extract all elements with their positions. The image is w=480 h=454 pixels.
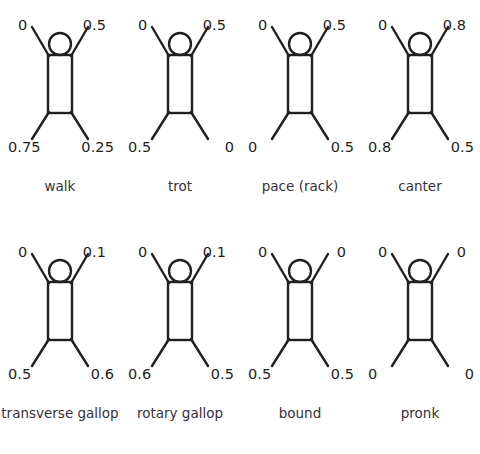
phase-front-left: 0 [18, 245, 27, 260]
gait-label-trot: trot [120, 180, 240, 194]
front-left-limb [272, 27, 289, 56]
torso-rect [408, 282, 432, 340]
gait-label-pace-rack: pace (rack) [240, 180, 360, 194]
phase-front-right: 0 [457, 245, 466, 260]
torso-rect [168, 282, 192, 340]
front-left-limb [392, 27, 409, 56]
hind-right-limb [431, 339, 448, 366]
phase-hind-left: 0 [248, 140, 257, 155]
hind-left-limb [392, 339, 409, 366]
phase-front-right: 0.8 [443, 18, 466, 33]
head-circle [49, 260, 71, 282]
gait-cell-trot: 00.50.50trot [120, 0, 240, 227]
head-circle [409, 33, 431, 55]
head-circle [409, 260, 431, 282]
phase-hind-right: 0.5 [331, 140, 354, 155]
phase-hind-right: 0 [465, 367, 474, 382]
torso-rect [288, 55, 312, 113]
phase-hind-left: 0.5 [128, 140, 151, 155]
hind-left-limb [392, 112, 409, 139]
phase-front-left: 0 [18, 18, 27, 33]
phase-front-left: 0 [138, 245, 147, 260]
phase-front-right: 0.1 [83, 245, 106, 260]
front-right-limb [431, 254, 448, 283]
phase-hind-left: 0.8 [368, 140, 391, 155]
gait-label-bound: bound [240, 407, 360, 421]
gait-label-transverse-gallop: transverse gallop [0, 407, 120, 421]
hind-left-limb [32, 112, 49, 139]
phase-front-left: 0 [378, 18, 387, 33]
hind-left-limb [32, 339, 49, 366]
phase-hind-left: 0.6 [128, 367, 151, 382]
front-right-limb [311, 254, 328, 283]
head-circle [49, 33, 71, 55]
gait-label-pronk: pronk [360, 407, 480, 421]
phase-hind-right: 0.5 [211, 367, 234, 382]
front-left-limb [392, 254, 409, 283]
phase-front-right: 0.5 [203, 18, 226, 33]
phase-hind-left: 0.5 [8, 367, 31, 382]
torso-rect [48, 55, 72, 113]
phase-hind-right: 0.6 [91, 367, 114, 382]
torso-rect [408, 55, 432, 113]
phase-front-right: 0.1 [203, 245, 226, 260]
front-left-limb [32, 27, 49, 56]
phase-hind-right: 0.5 [451, 140, 474, 155]
phase-front-right: 0.5 [83, 18, 106, 33]
phase-hind-right: 0 [225, 140, 234, 155]
phase-hind-right: 0.5 [331, 367, 354, 382]
gait-cell-rotary-gallop: 00.10.60.5rotary gallop [120, 227, 240, 454]
hind-right-limb [71, 339, 88, 366]
phase-hind-left: 0 [368, 367, 377, 382]
torso-rect [288, 282, 312, 340]
hind-right-limb [311, 339, 328, 366]
front-left-limb [32, 254, 49, 283]
gait-cell-pronk: 0000pronk [360, 227, 480, 454]
gait-label-canter: canter [360, 180, 480, 194]
front-left-limb [152, 254, 169, 283]
head-circle [169, 33, 191, 55]
torso-rect [48, 282, 72, 340]
hind-right-limb [311, 112, 328, 139]
gait-cell-walk: 00.50.750.25walk [0, 0, 120, 227]
gait-cell-transverse-gallop: 00.10.50.6transverse gallop [0, 227, 120, 454]
front-left-limb [152, 27, 169, 56]
hind-right-limb [431, 112, 448, 139]
gait-diagram-grid: 00.50.750.25walk00.50.50trot00.500.5pace… [0, 0, 480, 454]
phase-front-left: 0 [138, 18, 147, 33]
hind-right-limb [191, 339, 208, 366]
head-circle [289, 33, 311, 55]
head-circle [289, 260, 311, 282]
hind-right-limb [191, 112, 208, 139]
hind-left-limb [272, 112, 289, 139]
gait-cell-pace-rack: 00.500.5pace (rack) [240, 0, 360, 227]
phase-hind-left: 0.5 [248, 367, 271, 382]
head-circle [169, 260, 191, 282]
gait-label-rotary-gallop: rotary gallop [120, 407, 240, 421]
phase-front-right: 0.5 [323, 18, 346, 33]
hind-right-limb [71, 112, 88, 139]
phase-front-left: 0 [258, 18, 267, 33]
phase-hind-left: 0.75 [8, 140, 41, 155]
gait-label-walk: walk [0, 180, 120, 194]
hind-left-limb [152, 339, 169, 366]
phase-front-left: 0 [258, 245, 267, 260]
hind-left-limb [152, 112, 169, 139]
phase-hind-right: 0.25 [81, 140, 114, 155]
gait-cell-canter: 00.80.80.5canter [360, 0, 480, 227]
hind-left-limb [272, 339, 289, 366]
gait-cell-bound: 000.50.5bound [240, 227, 360, 454]
phase-front-left: 0 [378, 245, 387, 260]
torso-rect [168, 55, 192, 113]
phase-front-right: 0 [337, 245, 346, 260]
front-left-limb [272, 254, 289, 283]
